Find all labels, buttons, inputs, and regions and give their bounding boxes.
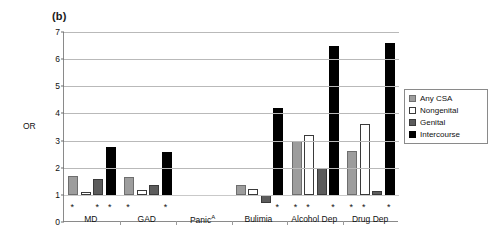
x-axis-category-label: Drug Dep <box>352 214 388 224</box>
bar-gad-intercourse <box>162 152 172 195</box>
page-title: (b) <box>52 10 67 22</box>
significance-marker: * <box>164 204 168 210</box>
bar-md-any-csa <box>68 176 78 195</box>
y-axis-tick-mark <box>61 86 64 87</box>
category-separator <box>287 221 288 225</box>
significance-marker: * <box>275 204 279 210</box>
legend-item-nongenital: Nongenital <box>409 105 483 115</box>
bar-gad-genital <box>149 185 159 195</box>
chart-legend: Any CSA Nongenital Genital Intercourse <box>404 89 488 144</box>
legend-item-genital: Genital <box>409 117 483 127</box>
y-axis-tick-mark <box>61 167 64 168</box>
significance-marker: * <box>126 204 130 210</box>
category-separator <box>120 221 121 225</box>
x-axis-category-label: PanicA <box>190 214 215 225</box>
gridline <box>64 141 399 142</box>
legend-label-nongenital: Nongenital <box>420 106 458 115</box>
x-axis-category-label: Alcohol Dep <box>291 214 337 224</box>
figure-panel-b: (b) OR 01234567 Any CSA Nongenital Genit… <box>0 0 492 238</box>
bar-md-intercourse <box>106 147 116 195</box>
legend-label-any-csa: Any CSA <box>420 94 452 103</box>
bar-bulimia-any-csa <box>236 185 246 195</box>
bar-alcohol-dep-intercourse <box>329 46 339 195</box>
legend-item-any-csa: Any CSA <box>409 93 483 103</box>
y-axis-tick-label: 4 <box>55 108 60 118</box>
category-separator <box>232 221 233 225</box>
bar-bulimia-genital <box>261 195 271 203</box>
legend-swatch-icon-genital <box>409 119 416 126</box>
reference-line-or-1 <box>64 195 399 196</box>
bar-drug-dep-any-csa <box>347 151 357 194</box>
significance-marker: * <box>70 204 74 210</box>
bar-drug-dep-intercourse <box>385 43 395 195</box>
plot-area: 01234567 <box>63 32 398 222</box>
y-axis-tick-mark <box>61 113 64 114</box>
y-axis-title: OR <box>23 121 36 131</box>
y-axis-tick-mark <box>61 222 64 223</box>
gridline <box>64 59 399 60</box>
significance-marker: * <box>294 204 298 210</box>
x-axis-category-label: MD <box>84 214 97 224</box>
y-axis-tick-mark <box>61 59 64 60</box>
significance-marker: * <box>387 204 391 210</box>
gridline <box>64 86 399 87</box>
x-axis-category-label: GAD <box>138 214 156 224</box>
bars-layer <box>64 32 399 222</box>
legend-swatch-icon-any-csa <box>409 95 416 102</box>
category-separator <box>176 221 177 225</box>
category-separator <box>343 221 344 225</box>
y-axis-tick-label: 2 <box>55 163 60 173</box>
gridline <box>64 32 399 33</box>
y-axis-tick-mark <box>61 32 64 33</box>
bar-drug-dep-nongenital <box>360 124 370 195</box>
bar-md-genital <box>93 179 103 195</box>
bar-bulimia-intercourse <box>273 108 283 195</box>
legend-swatch-icon-intercourse <box>409 131 416 138</box>
significance-marker: * <box>331 204 335 210</box>
significance-marker: * <box>108 204 112 210</box>
x-axis-category-label: Bulimia <box>244 214 272 224</box>
gridline <box>64 168 399 169</box>
legend-swatch-icon-nongenital <box>409 107 416 114</box>
significance-marker: * <box>95 204 99 210</box>
y-axis-tick-label: 7 <box>55 27 60 37</box>
legend-label-intercourse: Intercourse <box>420 130 460 139</box>
gridline <box>64 113 399 114</box>
bar-alcohol-dep-nongenital <box>304 135 314 195</box>
bar-gad-any-csa <box>124 177 134 195</box>
legend-label-genital: Genital <box>420 118 445 127</box>
y-axis-tick-label: 0 <box>55 217 60 227</box>
significance-marker: * <box>306 204 310 210</box>
y-axis-tick-mark <box>61 140 64 141</box>
legend-item-intercourse: Intercourse <box>409 129 483 139</box>
significance-marker: * <box>362 204 366 210</box>
y-axis-tick-label: 1 <box>55 190 60 200</box>
y-axis-tick-label: 5 <box>55 81 60 91</box>
significance-marker: * <box>350 204 354 210</box>
bar-alcohol-dep-genital <box>317 168 327 195</box>
y-axis-tick-label: 3 <box>55 136 60 146</box>
y-axis-tick-label: 6 <box>55 54 60 64</box>
